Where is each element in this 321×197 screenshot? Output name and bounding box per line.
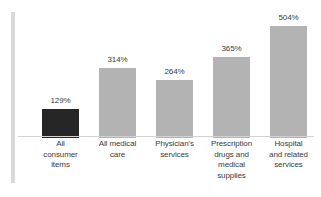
bar-rect-1[interactable] [99,68,136,138]
bar-rect-2[interactable] [156,80,193,138]
bar-value-label-2: 264% [164,67,184,77]
category-label-4-line-1: and related [261,150,316,161]
category-label-1-line-0: All medical [90,139,145,150]
category-label-2-line-1: services [147,150,202,161]
category-label-1-line-1: care [90,150,145,161]
x-axis-line [18,136,314,137]
chart-canvas: 129% 314% 264% 365% 504% All consumer it… [0,0,321,197]
category-label-3-line-3: supplies [204,171,259,182]
bar-column-2[interactable]: 264% [156,67,193,138]
left-accent-bar [11,12,15,183]
bar-rect-0[interactable] [42,109,79,138]
category-label-4-line-0: Hospital [261,139,316,150]
bar-value-label-3: 365% [221,44,241,54]
bar-value-label-0: 129% [50,96,70,106]
bar-value-label-1: 314% [107,55,127,65]
bar-column-4[interactable]: 504% [270,13,307,138]
category-label-0: All consumer items [33,139,88,171]
bar-rect-3[interactable] [213,57,250,138]
category-label-2: Physician's services [147,139,202,160]
category-label-4: Hospital and related services [261,139,316,171]
category-label-3-line-2: medical [204,160,259,171]
plot-area: 129% 314% 264% 365% 504% [18,10,314,138]
bar-rect-4[interactable] [270,26,307,138]
category-label-2-line-0: Physician's [147,139,202,150]
category-label-4-line-2: services [261,160,316,171]
category-label-3: Prescription drugs and medical supplies [204,139,259,181]
category-label-1: All medical care [90,139,145,160]
bar-column-1[interactable]: 314% [99,55,136,138]
bar-column-3[interactable]: 365% [213,44,250,138]
category-label-0-line-2: items [33,160,88,171]
bar-value-label-4: 504% [278,13,298,23]
category-label-0-line-0: All [33,139,88,150]
bar-column-0[interactable]: 129% [42,96,79,138]
category-label-0-line-1: consumer [33,150,88,161]
category-label-3-line-0: Prescription [204,139,259,150]
category-label-row: All consumer items All medical care Phys… [18,139,314,195]
category-label-3-line-1: drugs and [204,150,259,161]
